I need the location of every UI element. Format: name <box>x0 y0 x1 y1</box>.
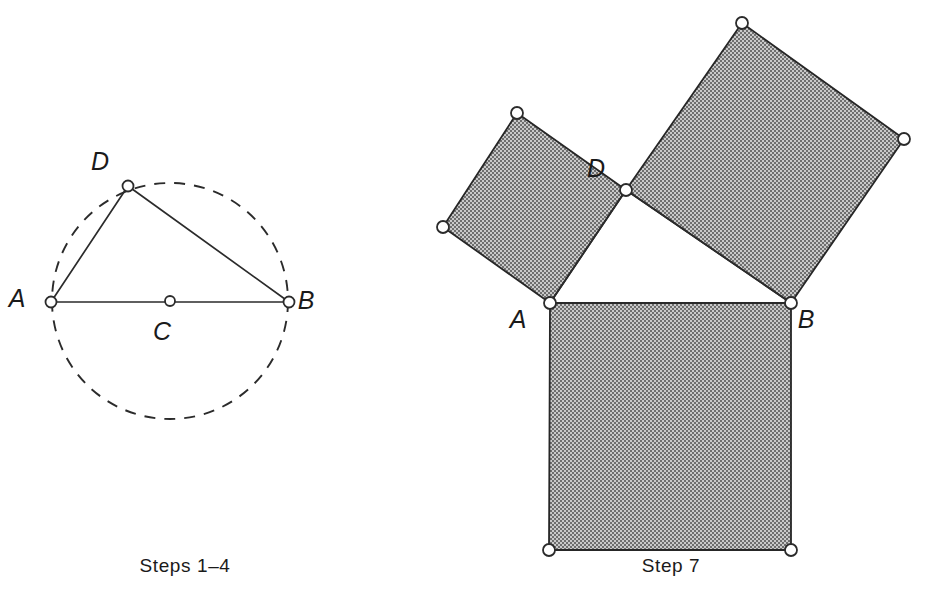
vertex-label-A: A <box>7 284 26 312</box>
vertex-label-B: B <box>798 305 815 333</box>
square-corner-marker <box>898 133 910 145</box>
vertex-point-B <box>284 297 295 308</box>
left-panel-caption: Steps 1–4 <box>140 555 231 576</box>
square-corner-marker <box>785 544 797 556</box>
vertex-label-A: A <box>508 305 527 333</box>
square-corner-marker <box>511 107 523 119</box>
vertex-label-D: D <box>587 154 605 182</box>
left-panel-labels: A B C D <box>7 147 315 345</box>
left-panel: A B C D Steps 1–4 <box>7 147 315 576</box>
square-corner-marker <box>437 221 449 233</box>
square-on-DB <box>626 23 904 303</box>
right-panel-squares <box>443 23 904 550</box>
vertex-label-D: D <box>91 147 109 175</box>
vertex-point-A <box>46 297 57 308</box>
square-on-AB <box>549 303 791 550</box>
right-panel: A B D Step 7 <box>437 17 910 576</box>
square-corner-marker <box>543 544 555 556</box>
vertex-point-D <box>620 184 632 196</box>
vertex-label-B: B <box>298 286 315 314</box>
figure-canvas: A B C D Steps 1–4 <box>0 0 925 607</box>
segment-DB <box>128 186 289 302</box>
vertex-point-B <box>785 297 797 309</box>
geometry-figure: A B C D Steps 1–4 <box>0 0 925 607</box>
square-on-AD <box>443 113 626 303</box>
vertex-point-C <box>165 296 175 306</box>
left-panel-segments <box>51 186 289 302</box>
segment-AD <box>51 186 128 302</box>
right-panel-caption: Step 7 <box>642 555 701 576</box>
vertex-point-A <box>544 297 556 309</box>
vertex-point-D <box>123 181 134 192</box>
vertex-label-C: C <box>153 317 172 345</box>
left-panel-vertices <box>46 181 295 308</box>
square-corner-marker <box>736 17 748 29</box>
